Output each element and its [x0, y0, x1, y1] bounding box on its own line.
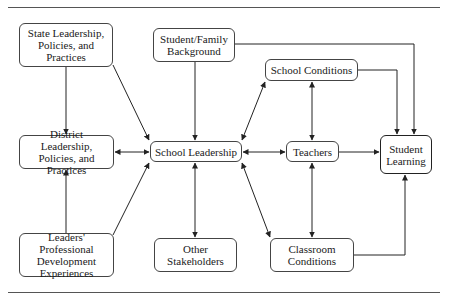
- node-school-conditions: School Conditions: [265, 59, 358, 81]
- node-school-leadership: School Leadership: [150, 141, 242, 162]
- node-district-leadership: District Leadership, Policies, and Pract…: [19, 135, 114, 169]
- node-label: Classroom Conditions: [274, 243, 350, 267]
- node-state-leadership: State Leadership, Policies, and Practice…: [19, 23, 113, 67]
- node-label: Student/Family Background: [157, 33, 231, 57]
- node-label: School Conditions: [271, 64, 353, 76]
- node-label: Teachers: [293, 146, 332, 158]
- node-student-learning: Student Learning: [380, 135, 432, 174]
- node-student-family-background: Student/Family Background: [153, 28, 235, 62]
- node-label: School Leadership: [155, 146, 237, 158]
- node-label: State Leadership, Policies, and Practice…: [23, 27, 109, 63]
- node-label: Student Learning: [384, 143, 428, 167]
- node-classroom-conditions: Classroom Conditions: [270, 238, 354, 272]
- node-label: District Leadership, Policies, and Pract…: [23, 128, 110, 176]
- node-teachers: Teachers: [286, 141, 339, 162]
- node-label: Leaders' Professional Development Experi…: [23, 231, 110, 279]
- node-leaders-professional-development: Leaders' Professional Development Experi…: [19, 233, 114, 277]
- node-label: Other Stakeholders: [158, 243, 233, 267]
- node-other-stakeholders: Other Stakeholders: [154, 238, 237, 272]
